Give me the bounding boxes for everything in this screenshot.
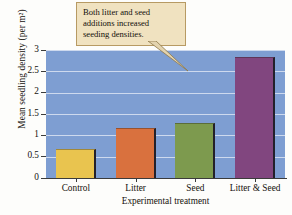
x-axis-tick-label: Litter & Seed (230, 183, 281, 193)
y-axis: 00.511.522.53 (0, 46, 46, 178)
callout-line-1: Both litter and seed (83, 7, 150, 17)
bar (116, 128, 156, 178)
y-axis-tick-label: 2.5 (27, 65, 39, 75)
x-axis-tick-label: Seed (186, 183, 204, 193)
x-axis-tick-label: Control (62, 183, 90, 193)
callout-line-3: seeding densities. (83, 29, 144, 39)
y-axis-tick-label: 2 (34, 86, 39, 96)
y-axis-tick-label: 1 (34, 129, 39, 139)
callout-text: Both litter and seed additions increased… (83, 7, 180, 41)
gridline (46, 50, 285, 51)
x-axis-tick-mark (255, 178, 256, 182)
y-axis-tick-label: 0 (34, 172, 39, 182)
bar (56, 149, 96, 178)
x-axis-tick-mark (195, 178, 196, 182)
y-axis-tick-label: 0.5 (27, 150, 39, 160)
plot-area (46, 50, 285, 178)
x-axis-tick-label: Litter (125, 183, 146, 193)
bar (175, 123, 215, 178)
x-axis-baseline (44, 178, 287, 179)
y-axis-tick-label: 3 (34, 44, 39, 54)
callout-box: Both litter and seed additions increased… (76, 2, 186, 46)
bar-chart-figure: Mean seedling density (per m²) 00.511.52… (0, 0, 292, 215)
y-axis-tick-label: 1.5 (27, 108, 39, 118)
x-axis-tick-mark (136, 178, 137, 182)
callout-line-2: additions increased (83, 18, 149, 28)
x-axis-tick-mark (76, 178, 77, 182)
bar (235, 57, 275, 178)
x-axis-title: Experimental treatment (46, 196, 285, 206)
